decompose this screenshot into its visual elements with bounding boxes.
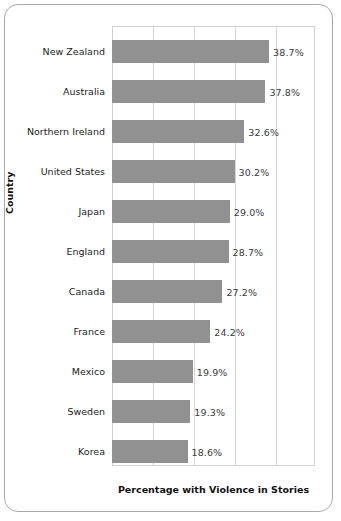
category-label: Sweden xyxy=(8,400,112,423)
bar xyxy=(112,200,230,223)
bar xyxy=(112,240,229,263)
bars-layer: 38.7% 37.8% 32.6% 30.2% 29.0% 28.7% 27.2… xyxy=(112,26,315,466)
category-label: United States xyxy=(8,160,112,183)
category-label: New Zealand xyxy=(8,40,112,63)
bar-row: 19.3% xyxy=(112,400,315,423)
bar xyxy=(112,40,269,63)
bar xyxy=(112,80,265,103)
bar xyxy=(112,440,188,463)
bar-row: 32.6% xyxy=(112,120,315,143)
category-label: Australia xyxy=(8,80,112,103)
category-label: France xyxy=(8,320,112,343)
bar-value-label: 30.2% xyxy=(239,166,270,177)
bar-row: 24.2% xyxy=(112,320,315,343)
bar-value-label: 18.6% xyxy=(192,446,223,457)
category-label: England xyxy=(8,240,112,263)
bar xyxy=(112,160,235,183)
bar-value-label: 32.6% xyxy=(248,126,279,137)
bar-row: 28.7% xyxy=(112,240,315,263)
bar xyxy=(112,360,193,383)
category-label: Mexico xyxy=(8,360,112,383)
bar-value-label: 19.9% xyxy=(197,366,228,377)
bar-row: 18.6% xyxy=(112,440,315,463)
bar-row: 38.7% xyxy=(112,40,315,63)
bar-row: 27.2% xyxy=(112,280,315,303)
y-axis-category-labels: New Zealand Australia Northern Ireland U… xyxy=(0,26,112,466)
bar-value-label: 19.3% xyxy=(194,406,225,417)
bar-row: 29.0% xyxy=(112,200,315,223)
y-axis-title: Country xyxy=(4,200,15,214)
bar-value-label: 37.8% xyxy=(269,86,300,97)
bar-value-label: 38.7% xyxy=(273,46,304,57)
bar xyxy=(112,120,244,143)
bar-row: 30.2% xyxy=(112,160,315,183)
bar xyxy=(112,320,210,343)
x-axis-title: Percentage with Violence in Stories xyxy=(112,484,315,495)
bar xyxy=(112,400,190,423)
bar xyxy=(112,280,222,303)
bar-row: 19.9% xyxy=(112,360,315,383)
bar-value-label: 29.0% xyxy=(234,206,265,217)
category-label: Korea xyxy=(8,440,112,463)
chart-container: New Zealand Australia Northern Ireland U… xyxy=(0,0,341,521)
category-label: Japan xyxy=(8,200,112,223)
bar-value-label: 24.2% xyxy=(214,326,245,337)
category-label: Canada xyxy=(8,280,112,303)
bar-value-label: 28.7% xyxy=(233,246,264,257)
bar-value-label: 27.2% xyxy=(226,286,257,297)
category-label: Northern Ireland xyxy=(8,120,112,143)
bar-row: 37.8% xyxy=(112,80,315,103)
